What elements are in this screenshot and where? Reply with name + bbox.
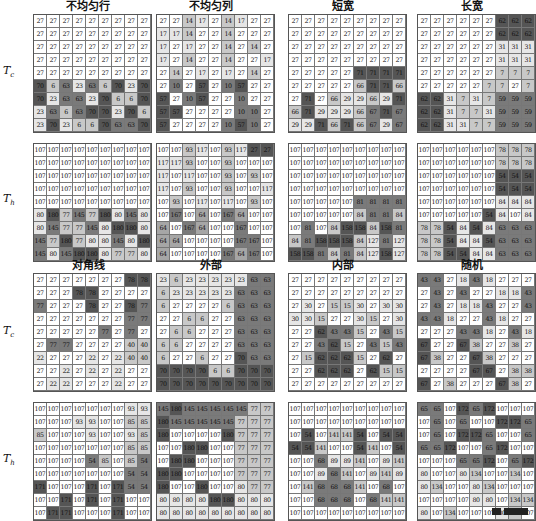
- grid-cell: 27: [509, 80, 522, 93]
- grid-cell: 27: [431, 28, 444, 41]
- grid-cell: 27: [34, 54, 47, 67]
- grid-cell: 27: [170, 352, 183, 365]
- grid-cell: 107: [444, 196, 457, 209]
- grid-cell: 107: [328, 507, 341, 520]
- grid-cell: 107: [248, 183, 261, 196]
- grid-cell: 14: [183, 15, 196, 28]
- grid-cell: 117: [157, 183, 170, 196]
- grid-cell: 27: [341, 54, 354, 67]
- grid-cell: 85: [125, 416, 138, 429]
- grid-cell: 158: [328, 235, 341, 248]
- grid-cell: 107: [86, 170, 99, 183]
- grid-cell: 27: [289, 15, 302, 28]
- grid-cell: 27: [209, 339, 222, 352]
- grid-cell: 27: [380, 28, 393, 41]
- grid-cell: 180: [170, 468, 183, 481]
- grid-cell: 107: [289, 494, 302, 507]
- grid-cell: 107: [289, 222, 302, 235]
- grid-cell: 62: [431, 119, 444, 132]
- grid-cell: 107: [289, 196, 302, 209]
- grid-cell: 107: [235, 196, 248, 209]
- grid-cell: 107: [444, 455, 457, 468]
- grid-cell: 27: [457, 378, 470, 391]
- grid-cell: 145: [235, 403, 248, 416]
- grid-cell: 27: [457, 54, 470, 67]
- grid-cell: 107: [289, 403, 302, 416]
- grid-cell: 107: [60, 481, 73, 494]
- grid-cell: 54: [354, 442, 367, 455]
- grid-cell: 63: [125, 119, 138, 132]
- grid-top-tc-short-wide: 2727272727272727272727272727272727272727…: [288, 14, 407, 133]
- grid-cell: 23: [60, 119, 73, 132]
- grid-cell: 107: [302, 416, 315, 429]
- grid-cell: 29: [380, 119, 393, 132]
- grid-cell: 27: [380, 313, 393, 326]
- grid-cell: 27: [209, 119, 222, 132]
- grid-cell: 63: [496, 222, 509, 235]
- grid-cell: 107: [112, 416, 125, 429]
- grid-cell: 107: [209, 235, 222, 248]
- grid-cell: 23: [47, 93, 60, 106]
- grid-cell: 107: [380, 403, 393, 416]
- grid-cell: 27: [261, 41, 274, 54]
- grid-cell: 107: [367, 403, 380, 416]
- grid-cell: 141: [367, 442, 380, 455]
- grid-cell: 68: [315, 481, 328, 494]
- grid-cell: 27: [457, 352, 470, 365]
- grid-cell: 43: [457, 287, 470, 300]
- grid-cell: 117: [222, 196, 235, 209]
- grid-cell: 27: [138, 28, 151, 41]
- grid-cell: 14: [222, 28, 235, 41]
- grid-cell: 107: [418, 157, 431, 170]
- grid-cell: 158: [341, 222, 354, 235]
- grid-cell: 107: [341, 170, 354, 183]
- grid-cell: 27: [328, 378, 341, 391]
- grid-cell: 107: [209, 442, 222, 455]
- grid-cell: 65: [431, 416, 444, 429]
- grid-cell: 65: [509, 455, 522, 468]
- grid-cell: 85: [125, 455, 138, 468]
- grid-cell: 27: [99, 274, 112, 287]
- grid-cell: 134: [431, 481, 444, 494]
- grid-cell: 107: [457, 507, 470, 520]
- grid-cell: 107: [380, 507, 393, 520]
- grid-cell: 62: [367, 365, 380, 378]
- grid-cell: 23: [112, 106, 125, 119]
- grid-cell: 171: [47, 507, 60, 520]
- grid-cell: 107: [302, 144, 315, 157]
- grid-cell: 17: [261, 54, 274, 67]
- grid-cell: 27: [34, 41, 47, 54]
- grid-cell: 14: [183, 28, 196, 41]
- grid-cell: 107: [86, 183, 99, 196]
- grid-cell: 27: [496, 274, 509, 287]
- grid-cell: 80: [222, 507, 235, 520]
- grid-cell: 6: [157, 300, 170, 313]
- grid-cell: 38: [444, 378, 457, 391]
- grid-cell: 30: [354, 313, 367, 326]
- grid-cell: 29: [341, 93, 354, 106]
- grid-cell: 27: [354, 15, 367, 28]
- grid-cell: 107: [457, 442, 470, 455]
- grid-cell: 107: [112, 442, 125, 455]
- grid-cell: 107: [86, 403, 99, 416]
- grid-cell: 38: [431, 352, 444, 365]
- grid-cell: 107: [209, 209, 222, 222]
- grid-cell: 66: [354, 119, 367, 132]
- grid-cell: 27: [60, 41, 73, 54]
- grid-cell: 27: [393, 54, 406, 67]
- grid-cell: 59: [496, 106, 509, 119]
- grid-cell: 80: [86, 235, 99, 248]
- grid-cell: 107: [315, 429, 328, 442]
- grid-cell: 27: [138, 326, 151, 339]
- grid-cell: 27: [418, 326, 431, 339]
- grid-cell: 6: [60, 106, 73, 119]
- grid-cell: 15: [367, 313, 380, 326]
- grid-cell: 107: [418, 144, 431, 157]
- grid-cell: 6: [222, 365, 235, 378]
- grid-cell: 27: [248, 144, 261, 157]
- grid-cell: 107: [125, 170, 138, 183]
- grid-cell: 80: [196, 507, 209, 520]
- grid-cell: 107: [328, 209, 341, 222]
- grid-cell: 107: [444, 209, 457, 222]
- grid-cell: 63: [73, 93, 86, 106]
